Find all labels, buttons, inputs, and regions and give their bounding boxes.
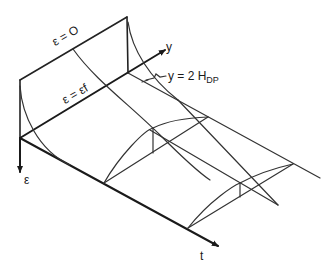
y-limit-t-line [128,73,320,178]
surface-edge-line [178,100,278,205]
diagram-canvas: ε = O ε = εf y y = 2 HDP ε t [0,0,331,270]
right-vertical-edge [127,17,128,73]
label-y-limit-main: y = 2 H [168,69,206,83]
label-y-axis: y [166,41,172,53]
y-axis [20,50,165,138]
t-axis [20,138,218,246]
right-profile-curve [128,22,178,100]
label-y-limit-sub: DP [206,75,219,85]
label-y-limit: y = 2 HDP [168,70,219,82]
label-t-axis: t [200,250,203,262]
label-epsilon-axis: ε [24,174,29,186]
